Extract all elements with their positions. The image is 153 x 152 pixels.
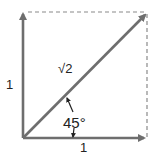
angle-label: 45°	[63, 114, 86, 131]
angle-arrow-upper	[67, 98, 73, 112]
bottom-side-label: 1	[80, 140, 87, 152]
vector-diagram: √2 1 1 45°	[0, 0, 153, 152]
hypotenuse-label: √2	[58, 61, 72, 76]
left-side-label: 1	[6, 77, 13, 92]
